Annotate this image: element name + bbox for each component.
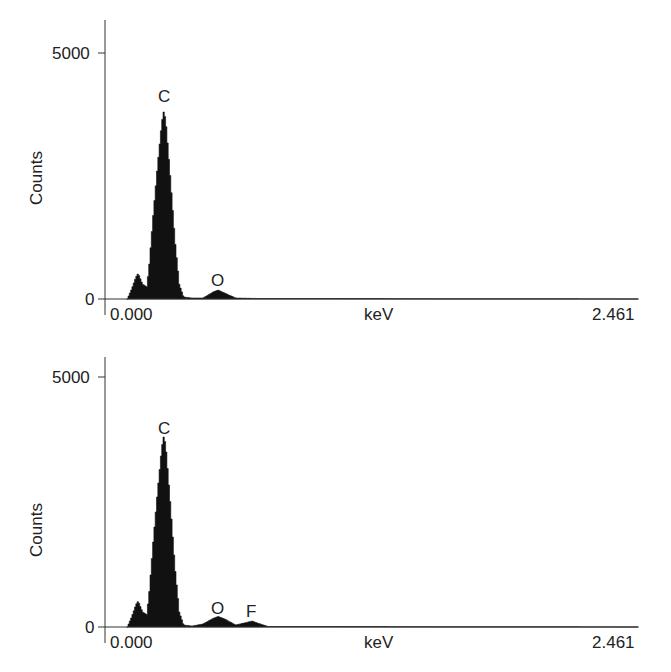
y-tick-label-0-bottom: 0 [85, 619, 94, 636]
x-tick-label-left-bottom: 0.000 [110, 634, 153, 651]
spectrum-fill-bottom [127, 437, 639, 627]
peak-label-f-bottom: F [246, 603, 256, 620]
y-axis-label-bottom: Counts [27, 503, 47, 557]
peak-label-c-bottom: C [158, 420, 170, 437]
peak-label-o-bottom: O [211, 600, 224, 617]
spectrum-plot-bottom [0, 0, 671, 672]
spectrum-panel-bottom: Counts 5000 0 0.000 keV 2.461 C O F [0, 0, 671, 336]
x-axis-label-bottom: keV [364, 634, 393, 651]
x-tick-label-right-bottom: 2.461 [592, 634, 635, 651]
y-tick-label-5000-bottom: 5000 [52, 369, 90, 386]
